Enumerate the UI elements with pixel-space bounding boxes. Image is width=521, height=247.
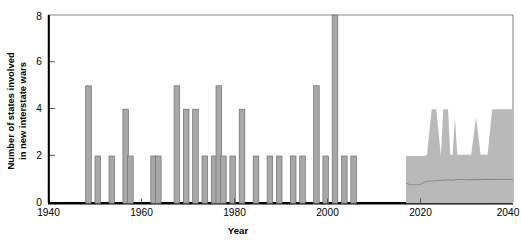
bar-1948 — [86, 86, 92, 203]
bar-1987 — [276, 156, 282, 203]
x-tick-2000: 2000 — [316, 207, 339, 218]
y-axis-title-line2: in new interstate wars — [17, 62, 28, 160]
y-tick-4: 4 — [36, 103, 42, 114]
bar-1957 — [128, 156, 134, 203]
bar-1969 — [193, 109, 199, 203]
bar-2001 — [342, 156, 348, 203]
y-axis-title: Number of states involved in new interst… — [5, 52, 28, 169]
projection-band-group — [406, 109, 513, 203]
projection-uncertainty-band — [406, 109, 513, 203]
bar-1992 — [300, 156, 306, 203]
y-tick-labels: 0 2 4 6 8 — [36, 11, 42, 208]
x-tick-1960: 1960 — [130, 207, 153, 218]
bars-group — [86, 15, 357, 203]
bar-1963 — [156, 156, 162, 203]
y-tick-2: 2 — [36, 150, 42, 161]
bar-2003 — [351, 156, 357, 203]
y-tick-8: 8 — [36, 11, 42, 22]
x-tick-1940: 1940 — [37, 207, 60, 218]
bar-1965 — [174, 86, 180, 203]
y-tick-6: 6 — [36, 56, 42, 67]
bar-1999 — [332, 15, 338, 203]
bar-1990 — [290, 156, 296, 203]
bar-1979 — [239, 109, 245, 203]
bar-1985 — [267, 156, 273, 203]
bar-1967 — [183, 109, 189, 203]
interstate-wars-chart: Number of states involved in new interst… — [0, 0, 521, 247]
bar-1950 — [95, 156, 101, 203]
x-tick-1980: 1980 — [223, 207, 246, 218]
bar-1975 — [221, 156, 227, 203]
bar-1953 — [109, 156, 115, 203]
bar-1982 — [253, 156, 259, 203]
bar-1977 — [230, 156, 236, 203]
chart-figure: Number of states involved in new interst… — [0, 0, 521, 247]
x-tick-labels: 1940 1960 1980 2000 2020 2040 — [37, 207, 519, 218]
x-tick-2040: 2040 — [497, 207, 520, 218]
y-axis-title-line1: Number of states involved — [5, 52, 16, 169]
bar-1995 — [314, 86, 320, 203]
x-axis-title: Year — [228, 225, 249, 236]
bar-1971 — [202, 156, 208, 203]
bar-1997 — [323, 156, 329, 203]
x-tick-2020: 2020 — [409, 207, 432, 218]
